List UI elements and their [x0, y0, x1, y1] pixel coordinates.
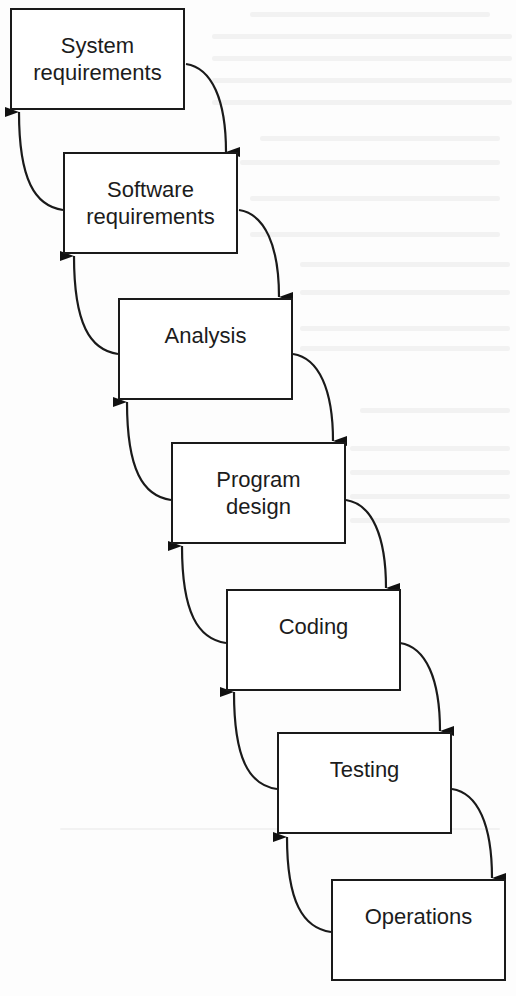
- feedback-arrow-6: [287, 837, 331, 932]
- stage-operations: Operations: [331, 879, 506, 981]
- feedback-arrow-4: [182, 546, 226, 643]
- stage-label-line1: Software: [107, 176, 194, 203]
- forward-arrow-5: [400, 643, 440, 731]
- forward-arrow-1: [186, 64, 226, 152]
- stage-coding: Coding: [226, 589, 401, 691]
- stage-label-line2: requirements: [86, 203, 214, 230]
- forward-arrow-3: [293, 354, 333, 441]
- stage-label: Testing: [330, 756, 400, 783]
- stage-label-line2: design: [226, 493, 291, 520]
- forward-arrow-6: [452, 789, 492, 878]
- stage-system-requirements: System requirements: [10, 8, 185, 110]
- stage-software-requirements: Software requirements: [63, 152, 238, 254]
- stage-program-design: Program design: [171, 442, 346, 544]
- forward-arrow-4: [346, 500, 386, 588]
- stage-label: Operations: [365, 903, 473, 930]
- stage-label-line1: System: [61, 32, 134, 59]
- stage-testing: Testing: [277, 732, 452, 834]
- feedback-arrow-3: [127, 402, 171, 500]
- feedback-arrow-1: [19, 112, 63, 210]
- feedback-arrow-2: [74, 256, 118, 354]
- feedback-arrow-5: [234, 692, 277, 789]
- stage-label-line2: requirements: [33, 59, 161, 86]
- stage-analysis: Analysis: [118, 298, 293, 400]
- stage-label: Coding: [279, 613, 349, 640]
- forward-arrow-2: [239, 210, 279, 297]
- stage-label: Analysis: [165, 322, 247, 349]
- stage-label-line1: Program: [216, 466, 300, 493]
